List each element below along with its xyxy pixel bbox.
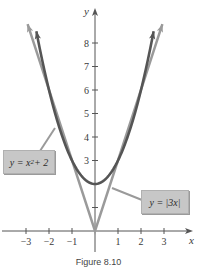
y-tick-label: 4: [84, 132, 89, 143]
axes: [2, 8, 193, 252]
x-tick-label: 2: [139, 236, 144, 247]
y-tick-label: 6: [84, 85, 89, 96]
callout-abs: y = |3x|: [141, 190, 189, 214]
callout-parabola: y = x2 + 2: [3, 150, 55, 174]
y-tick-label: 5: [84, 108, 89, 119]
y-tick-label: 7: [84, 61, 89, 72]
x-tick-label: 1: [116, 236, 121, 247]
x-tick-label: −2: [44, 236, 55, 247]
figure-caption: Figure 8.10: [0, 257, 197, 267]
y-tick-label: 8: [84, 38, 89, 49]
x-tick-label: −1: [67, 236, 78, 247]
x-tick-label: −3: [21, 236, 32, 247]
x-axis-label: x: [188, 234, 194, 246]
callout-abs-leader: [112, 188, 142, 200]
chart-plot: −3−2−1123 345678 x y: [0, 0, 197, 268]
y-axis-label: y: [83, 5, 89, 17]
y-tick-label: 3: [84, 155, 89, 166]
callout-parabola-leader: [40, 128, 55, 151]
x-tick-label: 3: [162, 236, 167, 247]
